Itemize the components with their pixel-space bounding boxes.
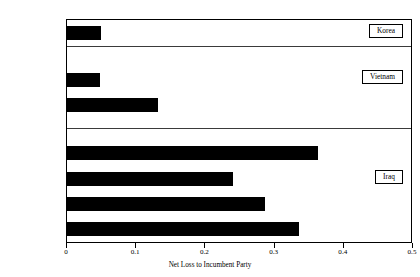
era-label-iraq: Iraq xyxy=(375,170,403,184)
bar xyxy=(67,197,265,211)
bar xyxy=(67,146,318,160)
plot-area: KoreaVietnamIraq xyxy=(66,19,412,243)
bar-chart: KoreaVietnamIraq 1952 NES1968 NES1972 NE… xyxy=(0,0,420,277)
x-axis-tick-label: 0 xyxy=(46,249,86,256)
group-divider xyxy=(67,128,411,129)
x-axis-tick-label: 0.2 xyxy=(184,249,224,256)
group-divider xyxy=(67,46,411,47)
era-label-vietnam: Vietnam xyxy=(362,70,403,84)
era-label-korea: Korea xyxy=(369,24,403,38)
x-axis-title: Net Loss to Incumbent Party xyxy=(0,262,420,269)
bar xyxy=(67,98,158,112)
bar xyxy=(67,222,299,236)
x-axis-tick-label: 0.5 xyxy=(392,249,420,256)
x-axis-tick-label: 0.4 xyxy=(323,249,363,256)
bar xyxy=(67,172,233,186)
x-axis-tick-label: 0.1 xyxy=(115,249,155,256)
x-axis-tick-label: 0.3 xyxy=(254,249,294,256)
bar xyxy=(67,26,101,40)
bar xyxy=(67,73,100,87)
